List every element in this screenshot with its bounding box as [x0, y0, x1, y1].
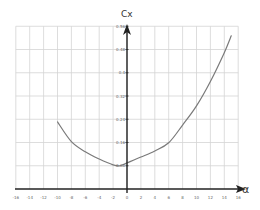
y-tick-label: 0.56: [116, 24, 125, 29]
x-tick-label: -10: [54, 195, 61, 200]
x-tick-label: 14: [222, 195, 228, 200]
curve-layer: [58, 36, 232, 166]
x-tick-label: 12: [208, 195, 214, 200]
x-tick-label: -8: [69, 195, 73, 200]
x-tick-label: 0: [126, 195, 129, 200]
y-tick-label: 0.24: [116, 117, 125, 122]
x-tick-label: -14: [26, 195, 33, 200]
x-axis-title: α: [242, 183, 249, 196]
cx-curve: [58, 36, 232, 166]
y-tick-label: 0.48: [116, 47, 125, 52]
drag-coefficient-chart: -16-14-12-10-8-6-4-20246810121416 0.080.…: [0, 0, 260, 210]
x-tick-label: -4: [97, 195, 101, 200]
x-tick-label: 16: [236, 195, 242, 200]
x-tick-label: -2: [111, 195, 115, 200]
x-tick-label: 2: [140, 195, 143, 200]
x-tick-labels: -16-14-12-10-8-6-4-20246810121416: [13, 195, 242, 200]
x-tick-label: 6: [167, 195, 170, 200]
y-tick-label: 0.32: [116, 94, 125, 99]
x-tick-label: -12: [40, 195, 47, 200]
y-tick-label: 0.4: [119, 70, 126, 75]
x-tick-label: 8: [181, 195, 184, 200]
x-tick-label: 4: [154, 195, 157, 200]
x-tick-label: -6: [83, 195, 87, 200]
y-tick-label: 0.08: [116, 163, 125, 168]
y-tick-label: 0.16: [116, 140, 125, 145]
x-tick-label: 10: [194, 195, 200, 200]
y-axis-title: Cx: [121, 9, 133, 19]
x-tick-label: -16: [13, 195, 20, 200]
